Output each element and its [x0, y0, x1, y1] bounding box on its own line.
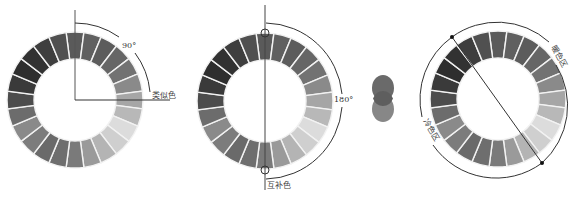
term-label: 类似色 — [152, 90, 176, 100]
angle-label: 180° — [334, 95, 353, 104]
warm-cool-color-wheel: 暖色区 冷色区 — [420, 22, 569, 178]
divider-endpoint-dot — [450, 35, 454, 39]
overlapping-circles — [372, 75, 394, 122]
complementary-color-wheel: 180° 互补色 — [197, 5, 353, 190]
analogous-color-wheel: 90° 类似色 — [7, 10, 176, 168]
divider-endpoint-dot — [540, 161, 544, 165]
term-label: 互补色 — [267, 180, 291, 190]
angle-label: 90° — [122, 41, 136, 50]
wheel-segments — [430, 31, 566, 167]
color-wheel-diagram: 90° 类似色 180° 互补色 暖色区 冷色区 — [0, 0, 585, 200]
